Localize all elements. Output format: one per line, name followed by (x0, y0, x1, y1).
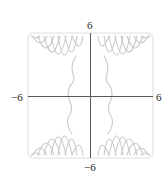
y-min-label: −6 (84, 162, 96, 173)
x-max-label: 6 (156, 92, 162, 103)
axes (28, 33, 153, 158)
y-max-label: 6 (87, 20, 93, 31)
x-min-label: −6 (11, 92, 23, 103)
contour-plot (0, 0, 168, 174)
